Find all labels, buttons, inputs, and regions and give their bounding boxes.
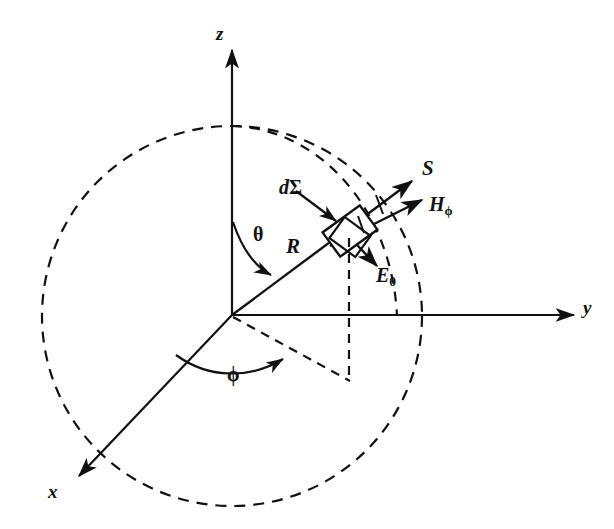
area-element-label: dΣ <box>279 177 302 197</box>
h-symbol: H <box>429 193 445 215</box>
poynting-vector-label: S <box>422 158 434 179</box>
d-symbol: d <box>279 176 289 198</box>
z-axis-label: z <box>216 24 223 43</box>
x-axis-label: x <box>48 482 58 501</box>
phi-angle-label: ϕ <box>227 364 239 384</box>
figure-canvas: z y x θ ϕ R S Hϕ Eθ dΣ <box>0 0 614 529</box>
y-axis-label: y <box>583 298 591 317</box>
radius-vector-line <box>232 181 412 315</box>
x-axis-line <box>79 315 232 476</box>
magnetic-field-label: Hϕ <box>429 194 453 217</box>
e-subscript-theta: θ <box>389 274 396 289</box>
sigma-symbol: Σ <box>289 176 302 198</box>
radius-vector-label: R <box>286 236 300 257</box>
e-symbol: E <box>376 264 389 286</box>
theta-arc <box>233 222 271 275</box>
diagram-svg <box>0 0 614 529</box>
h-subscript-phi: ϕ <box>445 203 453 218</box>
electric-field-label: Eθ <box>376 265 396 288</box>
theta-angle-label: θ <box>253 224 263 244</box>
